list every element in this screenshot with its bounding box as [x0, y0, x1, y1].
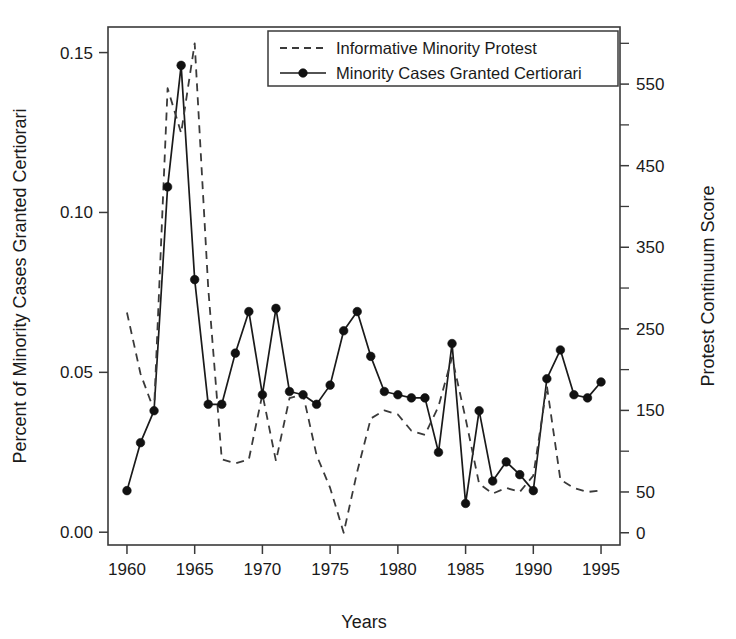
- data-point: [177, 61, 186, 70]
- y2-tick-label: 150: [636, 401, 664, 420]
- data-point: [475, 406, 484, 415]
- data-point: [204, 400, 213, 409]
- y-tick-label: 0.10: [60, 203, 93, 222]
- y-tick-label: 0.15: [60, 44, 93, 63]
- data-point: [366, 352, 375, 361]
- data-point: [272, 304, 281, 313]
- data-point: [515, 470, 524, 479]
- x-tick-label: 1990: [514, 560, 552, 579]
- y2-tick-label: 350: [636, 238, 664, 257]
- y2-tick-label: 550: [636, 75, 664, 94]
- x-axis-ticks: 19601965197019751980198519901995: [108, 545, 620, 579]
- data-point: [556, 346, 565, 355]
- y2-tick-label: 450: [636, 157, 664, 176]
- data-point: [190, 275, 199, 284]
- y-tick-label: 0.05: [60, 363, 93, 382]
- data-point: [407, 394, 416, 403]
- data-point: [529, 486, 538, 495]
- data-point: [434, 448, 443, 457]
- x-tick-label: 1960: [108, 560, 146, 579]
- data-point: [502, 458, 511, 467]
- y2-tick-label: 0: [636, 524, 645, 543]
- data-point: [299, 390, 308, 399]
- series-line-solid: [127, 65, 601, 503]
- data-point: [326, 381, 335, 390]
- legend-label: Minority Cases Granted Certiorari: [336, 64, 582, 82]
- x-tick-label: 1975: [311, 560, 349, 579]
- data-point: [394, 390, 403, 399]
- data-point: [583, 394, 592, 403]
- x-tick-label: 1985: [447, 560, 485, 579]
- plot-border: [108, 27, 620, 545]
- y-axis-right-ticks: 050150250350450550: [620, 43, 664, 542]
- y2-tick-label: 50: [636, 483, 655, 502]
- chart-figure: 19601965197019751980198519901995 0.000.0…: [0, 0, 736, 639]
- data-point: [353, 307, 362, 316]
- y-axis-left-ticks: 0.000.050.100.15: [60, 44, 108, 543]
- x-tick-label: 1965: [176, 560, 214, 579]
- legend-label: Informative Minority Protest: [336, 39, 537, 57]
- data-point: [312, 400, 321, 409]
- plot-frame: [108, 27, 620, 545]
- data-point: [570, 390, 579, 399]
- chart-legend: Informative Minority ProtestMinority Cas…: [268, 31, 618, 86]
- data-point: [245, 307, 254, 316]
- x-axis-title: Years: [341, 612, 386, 632]
- data-point: [461, 499, 470, 508]
- data-point: [231, 349, 240, 358]
- legend-swatch-marker: [299, 69, 308, 78]
- series-line-dashed: [127, 43, 601, 532]
- data-point: [217, 400, 226, 409]
- chart-canvas: 19601965197019751980198519901995 0.000.0…: [0, 0, 736, 639]
- data-point: [421, 394, 430, 403]
- y-axis-left-title: Percent of Minority Cases Granted Certio…: [10, 108, 30, 463]
- x-tick-label: 1970: [243, 560, 281, 579]
- data-point: [339, 326, 348, 335]
- y2-tick-label: 250: [636, 320, 664, 339]
- data-point: [448, 339, 457, 348]
- data-point: [123, 486, 132, 495]
- data-point: [285, 387, 294, 396]
- y-tick-label: 0.00: [60, 523, 93, 542]
- x-tick-label: 1995: [582, 560, 620, 579]
- y-axis-right-title: Protest Continuum Score: [698, 185, 718, 386]
- data-point: [543, 374, 552, 383]
- data-point: [380, 387, 389, 396]
- data-point: [163, 183, 172, 192]
- data-point: [150, 406, 159, 415]
- x-tick-label: 1980: [379, 560, 417, 579]
- data-point: [258, 390, 267, 399]
- data-point: [597, 378, 606, 387]
- data-series-layer: [127, 43, 601, 532]
- data-point: [136, 438, 145, 447]
- data-point: [488, 477, 497, 486]
